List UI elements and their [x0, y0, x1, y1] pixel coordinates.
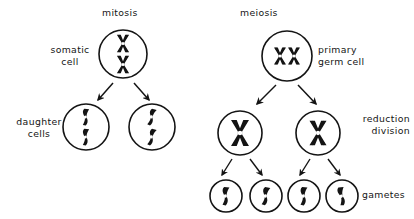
- arrow-gamete-1: [222, 159, 232, 175]
- arrow-gamete-4: [328, 159, 340, 175]
- chromosome-single: [262, 187, 271, 206]
- arrow-meiosis-left: [257, 85, 276, 104]
- chromosome-duplicated: [117, 35, 129, 53]
- arrow-gamete-2: [250, 159, 262, 175]
- diagram-graphics: [0, 0, 414, 219]
- chromosome-single: [83, 109, 89, 126]
- cell-gamete-3: [288, 180, 320, 212]
- cell-gamete-4: [326, 180, 358, 212]
- arrow-gamete-3: [300, 159, 310, 175]
- cell-daughter-right: [129, 104, 175, 150]
- cell-reduction-left: [218, 111, 262, 155]
- chromosome-single: [147, 128, 157, 146]
- label-somatic-cell: somatic cell: [42, 44, 98, 67]
- chromosome-duplicated: [288, 47, 300, 64]
- cell-primary-germ: [262, 31, 312, 81]
- chromosome-duplicated: [231, 120, 249, 146]
- cell-daughter-left: [63, 104, 109, 150]
- chromosome-single: [223, 187, 230, 205]
- cell-somatic: [99, 30, 147, 78]
- cell-gamete-1: [210, 180, 242, 212]
- chromosome-single: [83, 129, 89, 146]
- mitosis-meiosis-diagram: mitosis meiosis somatic cell daughter ce…: [0, 0, 414, 219]
- cell-gamete-2: [250, 180, 282, 212]
- chromosome-single: [147, 108, 157, 126]
- chromosome-duplicated: [309, 121, 326, 145]
- chromosome-duplicated: [117, 56, 129, 74]
- label-primary-germ-cell: primary germ cell: [318, 44, 388, 67]
- chromosome-duplicated: [274, 47, 286, 64]
- chromosome-single: [337, 187, 348, 206]
- chromosome-single: [301, 187, 308, 205]
- title-mitosis: mitosis: [102, 7, 138, 19]
- arrow-mitosis-left: [98, 83, 113, 100]
- arrow-meiosis-right: [298, 85, 316, 104]
- label-gametes: gametes: [362, 189, 405, 201]
- label-reduction-division: reduction division: [344, 113, 410, 136]
- title-meiosis: meiosis: [240, 7, 278, 19]
- arrow-mitosis-right: [134, 83, 149, 100]
- cell-reduction-right: [296, 111, 340, 155]
- label-daughter-cells: daughter cells: [10, 116, 68, 139]
